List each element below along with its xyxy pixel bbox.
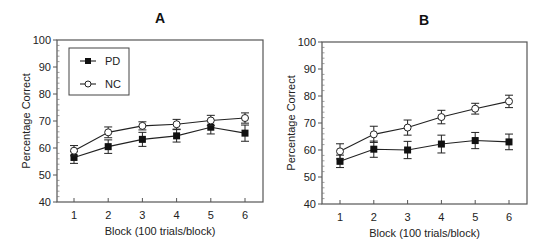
series-nc (70, 113, 249, 156)
y-axis-label: Percentage Correct (285, 75, 297, 170)
data-point-circle (337, 148, 344, 155)
x-tick-label: 3 (139, 209, 145, 221)
x-tick-label: 4 (174, 209, 180, 221)
y-tick-label: 100 (33, 34, 51, 46)
legend-marker-square (85, 58, 91, 64)
legend-marker-circle (85, 81, 91, 87)
series-pd (70, 120, 249, 163)
y-tick-label: 100 (298, 36, 316, 48)
data-point-square (472, 137, 479, 144)
x-tick-label: 2 (371, 211, 377, 223)
legend-label: PD (105, 55, 120, 67)
x-tick-label: 1 (71, 209, 77, 221)
y-tick-label: 60 (304, 144, 316, 156)
data-point-circle (71, 147, 78, 154)
series-nc (336, 95, 513, 159)
data-point-circle (506, 98, 513, 105)
data-point-square (370, 146, 377, 153)
panel-title: B (419, 12, 429, 28)
data-point-circle (139, 122, 146, 129)
data-point-square (438, 141, 445, 148)
series-line (340, 101, 509, 151)
data-point-square (404, 147, 411, 154)
x-axis-label: Block (100 trials/block) (369, 227, 480, 239)
data-point-circle (207, 117, 214, 124)
panel-a: A405060708090100123456Block (100 trials/… (20, 10, 263, 237)
data-point-circle (105, 129, 112, 136)
y-tick-label: 90 (304, 63, 316, 75)
plot-frame (322, 42, 527, 204)
data-point-square (139, 136, 146, 143)
x-tick-label: 4 (438, 211, 444, 223)
y-tick-label: 40 (304, 198, 316, 210)
y-tick-label: 60 (39, 142, 51, 154)
data-point-circle (242, 115, 249, 122)
legend: PDNC (69, 48, 129, 95)
data-point-circle (173, 121, 180, 128)
x-tick-label: 6 (242, 209, 248, 221)
data-point-circle (370, 131, 377, 138)
x-tick-label: 5 (208, 209, 214, 221)
y-tick-label: 70 (39, 115, 51, 127)
x-tick-label: 5 (472, 211, 478, 223)
y-tick-label: 70 (304, 117, 316, 129)
x-tick-label: 3 (405, 211, 411, 223)
data-point-square (173, 132, 180, 139)
legend-label: NC (105, 78, 121, 90)
data-point-square (105, 143, 112, 150)
panel-b: B405060708090100123456Block (100 trials/… (285, 12, 527, 239)
y-tick-label: 90 (39, 61, 51, 73)
y-tick-label: 50 (39, 169, 51, 181)
y-tick-label: 80 (304, 90, 316, 102)
y-axis: 405060708090100 (298, 36, 325, 210)
data-point-circle (438, 114, 445, 121)
data-point-square (242, 130, 249, 137)
data-point-circle (404, 124, 411, 131)
x-axis-label: Block (100 trials/block) (105, 225, 216, 237)
x-tick-label: 6 (506, 211, 512, 223)
y-tick-label: 80 (39, 88, 51, 100)
x-tick-label: 2 (105, 209, 111, 221)
y-tick-label: 40 (39, 196, 51, 208)
data-point-circle (472, 105, 479, 112)
series-line (74, 127, 245, 157)
figure: A405060708090100123456Block (100 trials/… (0, 0, 549, 252)
x-tick-label: 1 (337, 211, 343, 223)
y-axis-label: Percentage Correct (20, 73, 32, 168)
series-line (74, 118, 245, 151)
y-axis: 405060708090100 (33, 34, 60, 208)
data-point-square (506, 138, 513, 145)
series-pd (336, 132, 513, 167)
panel-title: A (155, 10, 165, 26)
series-line (340, 141, 509, 162)
y-tick-label: 50 (304, 171, 316, 183)
